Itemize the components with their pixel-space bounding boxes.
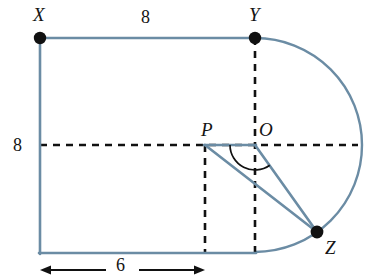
geometry-figure: X Y P O Z 8 8 6	[0, 0, 376, 278]
vertex-label-x: X	[33, 5, 45, 24]
dimension-arrow-6-left-head	[40, 265, 51, 274]
dimension-label-top-8: 8	[141, 8, 150, 26]
vertex-label-y: Y	[249, 5, 260, 24]
vertex-label-z: Z	[325, 238, 336, 257]
geometry-canvas	[0, 0, 376, 278]
vertex-dot-y	[249, 32, 261, 44]
dimension-arrow-6-right-head	[194, 265, 205, 274]
dimension-label-bottom-6: 6	[116, 256, 125, 274]
segment-oz	[255, 145, 317, 232]
segment-pz	[205, 145, 317, 232]
vertex-dot-x	[34, 32, 46, 44]
vertex-dot-z	[311, 226, 324, 239]
vertex-label-o: O	[259, 120, 273, 139]
dimension-label-left-8: 8	[13, 136, 22, 154]
vertex-label-p: P	[201, 120, 213, 139]
